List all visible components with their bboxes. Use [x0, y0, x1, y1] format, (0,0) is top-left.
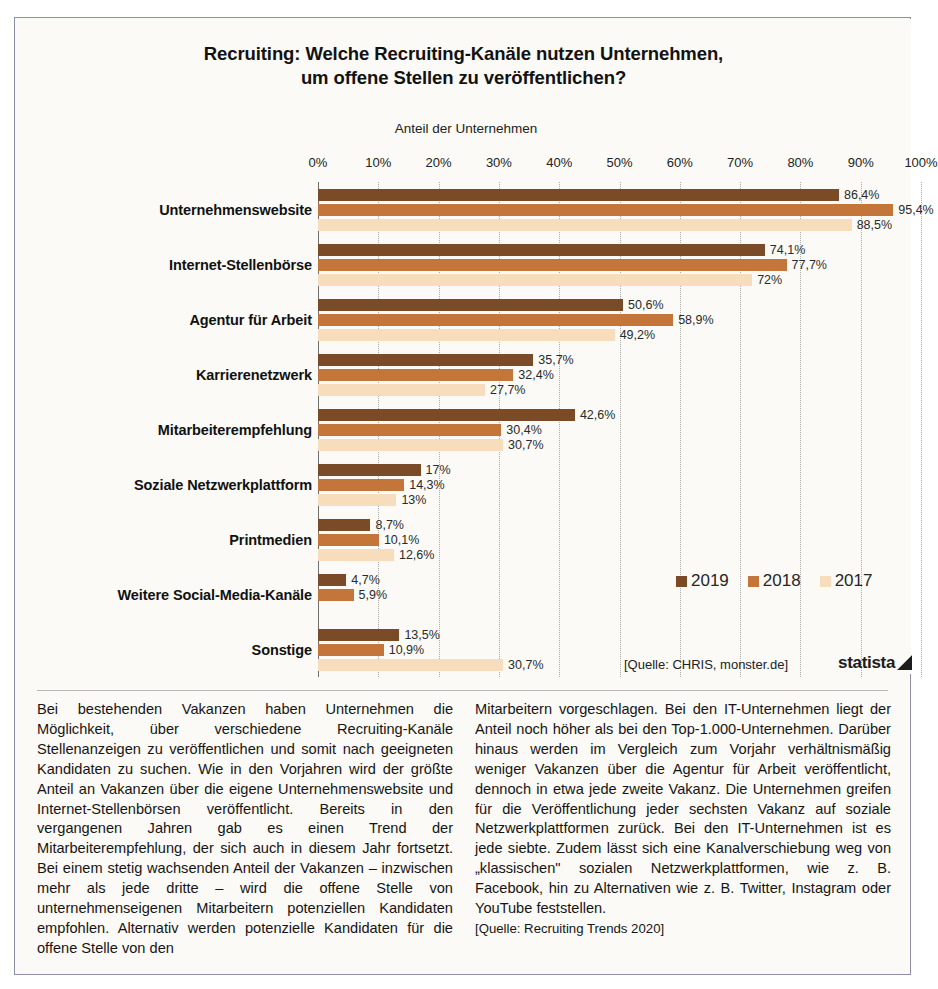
bar-value-label: 30,7% [503, 439, 543, 451]
bar-value-label: 42,6% [575, 409, 615, 421]
statista-logo: statista [838, 653, 912, 673]
x-tick-label: 10% [365, 155, 391, 170]
bar-value-label: 27,7% [485, 384, 525, 396]
legend-label: 2019 [691, 571, 729, 591]
bar [318, 644, 384, 656]
bar-value-label: 77,7% [787, 259, 827, 271]
chart-title: Recruiting: Welche Recruiting-Kanäle nut… [52, 42, 875, 90]
legend-swatch [748, 576, 759, 587]
page-content: Recruiting: Welche Recruiting-Kanäle nut… [15, 18, 910, 974]
bar-value-label: 74,1% [765, 244, 805, 256]
bar-value-label: 95,4% [893, 204, 933, 216]
chart-title-line-2: um offene Stellen zu veröffentlichen? [52, 66, 875, 90]
statista-wordmark: statista [838, 653, 895, 672]
x-tick-label: 80% [787, 155, 813, 170]
chart-legend: 201920182017 [676, 571, 872, 591]
bar-value-label: 86,4% [839, 189, 879, 201]
x-tick-label: 100% [904, 155, 937, 170]
bar [318, 534, 379, 546]
bar-value-label: 72% [752, 274, 782, 286]
legend-swatch [676, 576, 687, 587]
x-tick-label: 30% [486, 155, 512, 170]
article-right-source: [Quelle: Recruiting Trends 2020] [475, 920, 891, 938]
bar [318, 464, 421, 476]
bar-value-label: 12,6% [394, 549, 434, 561]
bar [318, 519, 370, 531]
category-label: Printmedien [34, 532, 312, 548]
statista-mark-icon [897, 655, 912, 670]
bar-value-label: 32,4% [513, 369, 553, 381]
bar [318, 589, 354, 601]
bar [318, 384, 485, 396]
category-label: Internet-Stellenbörse [34, 257, 312, 273]
legend-item: 2018 [748, 571, 801, 591]
bar [318, 259, 787, 271]
bar [318, 369, 513, 381]
legend-label: 2017 [835, 571, 873, 591]
gridline [740, 182, 741, 677]
category-label: Soziale Netzwerkplattform [34, 477, 312, 493]
chart-title-line-1: Recruiting: Welche Recruiting-Kanäle nut… [204, 43, 723, 64]
x-tick-label: 90% [848, 155, 874, 170]
category-label: Agentur für Arbeit [34, 312, 312, 328]
content-divider [37, 690, 888, 691]
bar-value-label: 88,5% [852, 219, 892, 231]
gridline [559, 182, 560, 677]
bar [318, 274, 752, 286]
legend-item: 2017 [820, 571, 873, 591]
bar-value-label: 58,9% [673, 314, 713, 326]
bar-value-label: 10,1% [379, 534, 419, 546]
bar [318, 574, 346, 586]
legend-label: 2018 [763, 571, 801, 591]
x-tick-label: 0% [309, 155, 328, 170]
category-label: Mitarbeiterempfehlung [34, 422, 312, 438]
x-tick-label: 70% [727, 155, 753, 170]
article-body: Bei bestehenden Vakanzen haben Unternehm… [37, 700, 892, 959]
bar-value-label: 30,4% [501, 424, 541, 436]
chart-source-note: [Quelle: CHRIS, monster.de] [624, 657, 788, 672]
x-axis-caption: Anteil der Unternehmen [16, 121, 911, 136]
plot-area: 86,4%95,4%88,5%74,1%77,7%72%50,6%58,9%49… [318, 182, 921, 677]
bar-value-label: 17% [421, 464, 451, 476]
bar [318, 659, 503, 671]
article-left-text: Bei bestehenden Vakanzen haben Unternehm… [37, 700, 453, 959]
article-right-text: Mitarbeitern vorgeschlagen. Bei den IT-U… [475, 700, 891, 919]
bar-value-label: 5,9% [354, 589, 388, 601]
bar-value-label: 13% [396, 494, 426, 506]
category-label: Unternehmenswebsite [34, 202, 312, 218]
category-label: Weitere Social-Media-Kanäle [34, 587, 312, 603]
bar [318, 244, 765, 256]
gridline [680, 182, 681, 677]
bar [318, 299, 623, 311]
chart-card: Recruiting: Welche Recruiting-Kanäle nut… [16, 19, 911, 674]
bar-value-label: 13,5% [399, 629, 439, 641]
x-tick-label: 50% [606, 155, 632, 170]
x-tick-label: 40% [546, 155, 572, 170]
article-right-column: Mitarbeitern vorgeschlagen. Bei den IT-U… [475, 700, 891, 959]
x-tick-label: 20% [426, 155, 452, 170]
bar [318, 219, 852, 231]
bar [318, 354, 533, 366]
x-axis-tick-labels: 0%10%20%30%40%50%60%70%80%90%100% [318, 155, 921, 175]
gridline [620, 182, 621, 677]
bar [318, 439, 503, 451]
bar-value-label: 4,7% [346, 574, 380, 586]
bar [318, 409, 575, 421]
bar [318, 189, 839, 201]
bar-value-label: 30,7% [503, 659, 543, 671]
legend-item: 2019 [676, 571, 729, 591]
category-label: Sonstige [34, 642, 312, 658]
bar-value-label: 8,7% [370, 519, 404, 531]
bar-value-label: 49,2% [615, 329, 655, 341]
bar [318, 329, 615, 341]
bar [318, 494, 396, 506]
bar-value-label: 14,3% [404, 479, 444, 491]
bar [318, 629, 399, 641]
article-left-column: Bei bestehenden Vakanzen haben Unternehm… [37, 700, 453, 959]
insert-frame: Insert Recruiting: Welche Recruiting-Kan… [14, 17, 911, 975]
x-tick-label: 60% [667, 155, 693, 170]
bar-value-label: 50,6% [623, 299, 663, 311]
bar [318, 549, 394, 561]
bar-value-label: 35,7% [533, 354, 573, 366]
gridline [861, 182, 862, 677]
